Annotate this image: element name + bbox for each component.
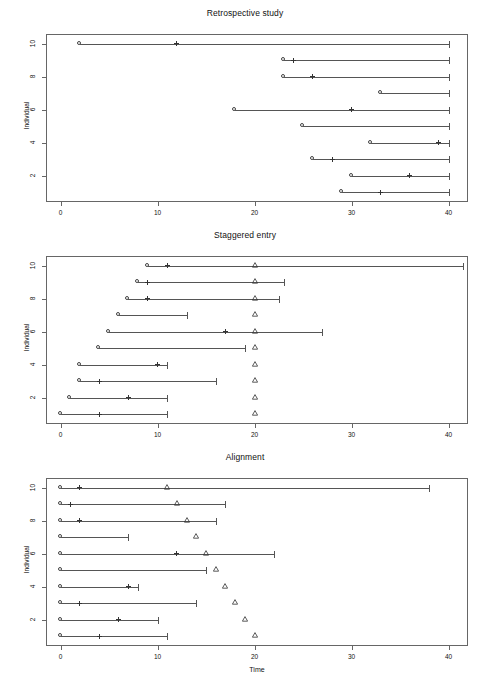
follow-up-end-cap bbox=[322, 329, 323, 336]
follow-up-end-cap bbox=[449, 74, 450, 81]
event-marker-cross bbox=[378, 190, 383, 195]
censoring-marker-triangle bbox=[252, 262, 258, 267]
follow-up-end-cap bbox=[274, 551, 275, 558]
entry-marker-circle bbox=[58, 617, 62, 621]
entry-marker-circle bbox=[232, 107, 236, 111]
entry-marker-circle bbox=[281, 74, 285, 78]
panel-staggered-entry: Staggered entry Individual 0102030402468… bbox=[0, 222, 490, 437]
follow-up-line bbox=[303, 126, 449, 127]
data-layer bbox=[0, 0, 490, 215]
event-marker-cross bbox=[155, 362, 160, 367]
follow-up-line bbox=[138, 282, 284, 283]
event-marker-cross bbox=[116, 617, 121, 622]
follow-up-line bbox=[61, 537, 129, 538]
event-marker-cross bbox=[291, 58, 296, 63]
follow-up-line bbox=[119, 315, 187, 316]
follow-up-line bbox=[61, 414, 168, 415]
censoring-marker-triangle bbox=[252, 361, 258, 366]
follow-up-line bbox=[70, 398, 167, 399]
follow-up-end-cap bbox=[167, 395, 168, 402]
censoring-marker-triangle bbox=[252, 328, 258, 333]
entry-marker-circle bbox=[106, 329, 110, 333]
follow-up-line bbox=[61, 636, 168, 637]
event-marker-cross bbox=[349, 107, 354, 112]
censoring-marker-triangle bbox=[252, 632, 258, 637]
follow-up-end-cap bbox=[158, 617, 159, 624]
follow-up-end-cap bbox=[128, 534, 129, 541]
entry-marker-circle bbox=[58, 567, 62, 571]
entry-marker-circle bbox=[58, 551, 62, 555]
data-layer bbox=[0, 222, 490, 437]
event-marker-cross bbox=[174, 41, 179, 46]
panel-alignment: Alignment Individual 010203040246810 Tim… bbox=[0, 444, 490, 659]
entry-marker-circle bbox=[67, 395, 71, 399]
event-marker-cross bbox=[126, 395, 131, 400]
event-marker-cross bbox=[174, 551, 179, 556]
entry-marker-circle bbox=[58, 518, 62, 522]
event-marker-cross bbox=[330, 157, 335, 162]
follow-up-end-cap bbox=[187, 312, 188, 319]
follow-up-end-cap bbox=[167, 633, 168, 640]
event-marker-cross bbox=[126, 584, 131, 589]
follow-up-end-cap bbox=[449, 189, 450, 196]
event-marker-cross bbox=[145, 280, 150, 285]
entry-marker-circle bbox=[58, 584, 62, 588]
entry-marker-circle bbox=[58, 633, 62, 637]
censoring-marker-triangle bbox=[222, 583, 228, 588]
follow-up-line bbox=[61, 570, 207, 571]
follow-up-end-cap bbox=[449, 57, 450, 64]
censoring-marker-triangle bbox=[213, 566, 219, 571]
follow-up-end-cap bbox=[449, 41, 450, 48]
panel-retrospective-study: Retrospective study Individual 010203040… bbox=[0, 0, 490, 215]
follow-up-line bbox=[61, 554, 274, 555]
event-marker-cross bbox=[77, 485, 82, 490]
follow-up-end-cap bbox=[449, 173, 450, 180]
entry-marker-circle bbox=[58, 485, 62, 489]
censoring-marker-triangle bbox=[184, 517, 190, 522]
event-marker-cross bbox=[145, 296, 150, 301]
follow-up-end-cap bbox=[138, 584, 139, 591]
follow-up-end-cap bbox=[216, 518, 217, 525]
censoring-marker-triangle bbox=[193, 533, 199, 538]
follow-up-end-cap bbox=[225, 501, 226, 508]
entry-marker-circle bbox=[58, 600, 62, 604]
censoring-marker-triangle bbox=[242, 616, 248, 621]
follow-up-end-cap bbox=[196, 600, 197, 607]
follow-up-line bbox=[352, 176, 449, 177]
entry-marker-circle bbox=[349, 173, 353, 177]
event-marker-cross bbox=[223, 329, 228, 334]
event-marker-cross bbox=[407, 173, 412, 178]
event-marker-cross bbox=[97, 412, 102, 417]
censoring-marker-triangle bbox=[252, 278, 258, 283]
event-marker-cross bbox=[436, 140, 441, 145]
follow-up-line bbox=[99, 348, 245, 349]
censoring-marker-triangle bbox=[252, 295, 258, 300]
entry-marker-circle bbox=[368, 140, 372, 144]
event-marker-cross bbox=[77, 518, 82, 523]
entry-marker-circle bbox=[58, 534, 62, 538]
x-axis-label: Time bbox=[46, 666, 468, 673]
entry-marker-circle bbox=[58, 411, 62, 415]
follow-up-line bbox=[80, 44, 449, 45]
event-marker-cross bbox=[310, 74, 315, 79]
event-marker-cross bbox=[77, 601, 82, 606]
follow-up-line bbox=[342, 192, 449, 193]
entry-marker-circle bbox=[339, 189, 343, 193]
censoring-marker-triangle bbox=[252, 311, 258, 316]
censoring-marker-triangle bbox=[252, 377, 258, 382]
censoring-marker-triangle bbox=[252, 394, 258, 399]
entry-marker-circle bbox=[58, 501, 62, 505]
data-layer bbox=[0, 444, 490, 659]
entry-marker-circle bbox=[145, 263, 149, 267]
follow-up-end-cap bbox=[245, 345, 246, 352]
follow-up-end-cap bbox=[463, 263, 464, 270]
entry-marker-circle bbox=[378, 90, 382, 94]
follow-up-line bbox=[381, 93, 449, 94]
censoring-marker-triangle bbox=[174, 500, 180, 505]
event-marker-cross bbox=[68, 502, 73, 507]
event-marker-cross bbox=[97, 379, 102, 384]
follow-up-line bbox=[61, 620, 158, 621]
censoring-marker-triangle bbox=[252, 344, 258, 349]
censoring-marker-triangle bbox=[203, 550, 209, 555]
event-marker-cross bbox=[165, 263, 170, 268]
